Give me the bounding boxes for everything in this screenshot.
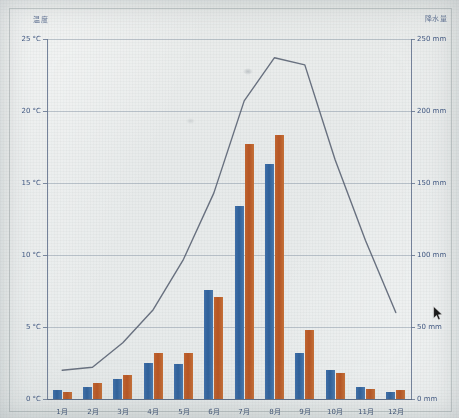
temperature-line-layer [0,0,459,418]
scan-artifact [186,118,195,124]
month-label: 3月 [108,406,138,416]
climograph-chart: 温度 降水量 0 °C5 °C10 °C15 °C20 °C25 °C 0 mm… [0,0,459,418]
month-label: 10月 [320,406,350,416]
month-label: 1月 [47,406,77,416]
month-label: 8月 [260,406,290,416]
x-axis-month-labels: 1月2月3月4月5月6月7月8月9月10月11月12月 [0,402,459,418]
month-label: 9月 [290,406,320,416]
month-label: 7月 [229,406,259,416]
month-label: 2月 [78,406,108,416]
month-label: 5月 [169,406,199,416]
month-label: 11月 [351,406,381,416]
scan-artifact [243,68,253,75]
month-label: 4月 [138,406,168,416]
month-label: 12月 [381,406,411,416]
month-label: 6月 [199,406,229,416]
temperature-line [62,58,396,371]
